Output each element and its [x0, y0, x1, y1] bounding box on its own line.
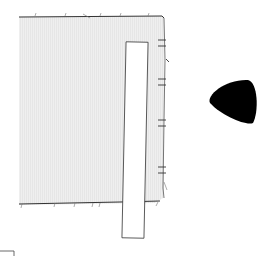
corner-bracket: [0, 251, 14, 256]
tailors-chalk-icon: [209, 80, 256, 124]
tape-measure: [122, 42, 148, 238]
fabric-diagram: [0, 0, 272, 256]
